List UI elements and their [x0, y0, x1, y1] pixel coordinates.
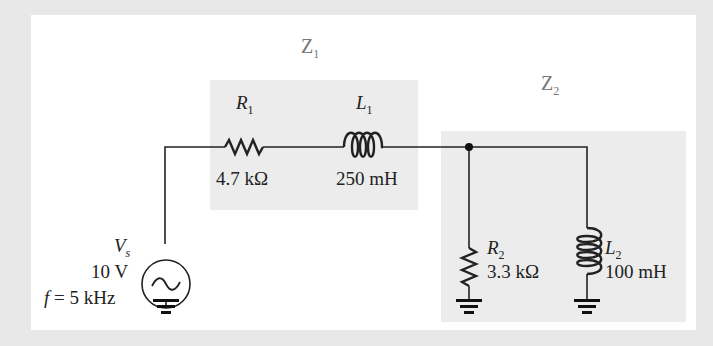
wire-source-top [165, 147, 225, 240]
r2-value: 3.3 kΩ [487, 262, 539, 281]
l2-label: L2 [605, 238, 622, 261]
l1-value: 250 mH [336, 169, 398, 188]
z2-label: Z2 [541, 73, 559, 97]
junction-node [465, 143, 473, 151]
z1-label: Z1 [301, 36, 319, 60]
l1-label: L1 [356, 93, 373, 116]
l1-sub: 1 [367, 103, 373, 117]
r1-value: 4.7 kΩ [216, 169, 268, 188]
r2-sub: 2 [499, 248, 505, 262]
resistor-r2-icon [462, 248, 476, 286]
z1-name: Z [301, 35, 313, 57]
frequency-value: = 5 kHz [49, 287, 115, 308]
source-label: Vs [114, 236, 130, 259]
l2-name: L [605, 237, 616, 258]
source-sub: s [126, 246, 131, 260]
z2-sub: 2 [553, 84, 559, 98]
l2-value: 100 mH [605, 262, 667, 281]
l1-name: L [356, 92, 367, 113]
z2-name: Z [541, 72, 553, 94]
source-frequency: f = 5 kHz [44, 288, 115, 307]
r1-label: R1 [236, 93, 254, 116]
r1-sub: 1 [248, 103, 254, 117]
inductor-l2-icon [577, 228, 601, 274]
source-voltage: 10 V [91, 262, 128, 281]
ground-icon [153, 299, 600, 314]
r2-label: R2 [487, 238, 505, 261]
inductor-l1-icon [344, 133, 383, 157]
r2-name: R [487, 237, 499, 258]
wire-l1-node [383, 147, 587, 228]
z1-sub: 1 [313, 47, 319, 61]
resistor-r1-icon [225, 140, 263, 154]
r1-name: R [236, 92, 248, 113]
source-name: V [114, 235, 126, 256]
l2-sub: 2 [616, 248, 622, 262]
